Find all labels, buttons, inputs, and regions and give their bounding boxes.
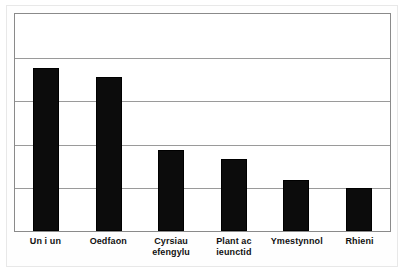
x-label-rhieni: Rhieni <box>328 236 391 258</box>
x-label-ymestynnol: Ymestynnol <box>265 236 328 258</box>
bar-rhieni[interactable] <box>346 188 372 231</box>
bar-slot-cyrsiau-efengylu <box>140 14 203 231</box>
x-label-line1: Oedfaon <box>78 236 139 247</box>
x-label-line2: efengylu <box>141 247 202 258</box>
x-label-plant-ac-ieunctid: Plant ac ieunctid <box>202 236 265 258</box>
x-label-un-i-un: Un i un <box>14 236 77 258</box>
bar-slot-un-i-un <box>15 14 78 231</box>
bar-slot-rhieni <box>328 14 391 231</box>
x-label-line1: Plant ac <box>203 236 264 247</box>
x-label-line1: Ymestynnol <box>266 236 327 247</box>
x-label-line1: Rhieni <box>329 236 390 247</box>
bars-layer <box>15 14 390 231</box>
bar-ymestynnol[interactable] <box>283 180 309 231</box>
x-label-line2: ieunctid <box>203 247 264 258</box>
bar-slot-ymestynnol <box>265 14 328 231</box>
bar-chart-figure: Un i un Oedfaon Cyrsiau efengylu Plant a… <box>0 0 408 280</box>
x-label-line1: Un i un <box>15 236 76 247</box>
bar-slot-oedfaon <box>78 14 141 231</box>
bar-oedfaon[interactable] <box>96 77 122 232</box>
bar-un-i-un[interactable] <box>33 68 59 231</box>
bar-cyrsiau-efengylu[interactable] <box>158 150 184 231</box>
x-label-oedfaon: Oedfaon <box>77 236 140 258</box>
x-label-line1: Cyrsiau <box>141 236 202 247</box>
bar-slot-plant-ac-ieunctid <box>203 14 266 231</box>
x-label-cyrsiau-efengylu: Cyrsiau efengylu <box>140 236 203 258</box>
bar-plant-ac-ieunctid[interactable] <box>221 159 247 231</box>
x-axis-tick-labels: Un i un Oedfaon Cyrsiau efengylu Plant a… <box>14 236 391 258</box>
plot-area <box>14 13 391 232</box>
